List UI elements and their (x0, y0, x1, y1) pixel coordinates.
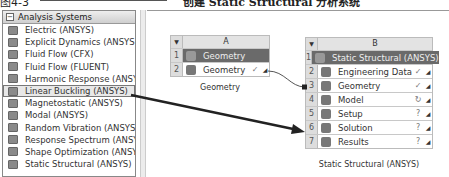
unfulfilled-icon: ? (412, 135, 424, 149)
static-structural-icon (315, 53, 325, 63)
modal-icon (8, 111, 18, 120)
corner-arrow-icon: ◢ (424, 107, 432, 121)
row-number: 7 (306, 135, 318, 148)
results-icon (321, 137, 331, 147)
system-b-row-6[interactable]: 6 Solution?◢ (306, 120, 432, 134)
column-label: B (318, 38, 432, 50)
corner-arrow-icon: ◢ (424, 121, 432, 135)
corner-arrow-icon: ◢ (424, 79, 432, 93)
unfulfilled-icon: ? (412, 121, 424, 135)
caption-box (40, 0, 167, 1)
fluid-flow-cfx-icon (8, 50, 18, 59)
row-number: 2 (171, 63, 183, 76)
unfulfilled-icon: ? (412, 107, 424, 121)
cell-label: Model (338, 93, 412, 107)
geometry-system-icon (186, 51, 196, 61)
refresh-required-icon: ↻ (412, 93, 424, 107)
geometry-icon (186, 65, 196, 75)
toolbox-item-static-structural[interactable]: Static Structural (ANSYS) (3, 158, 135, 170)
column-label: A (183, 36, 269, 48)
system-b-row-1[interactable]: 1 Static Structural (ANSYS) (306, 50, 432, 64)
row-number: 2 (306, 65, 318, 78)
row-number: 1 (171, 49, 183, 62)
panel-splitter[interactable] (140, 10, 146, 177)
corner-arrow-icon: ◢ (424, 65, 432, 79)
row-number: 6 (306, 121, 318, 134)
cell-label: Results (338, 135, 412, 149)
checkmark-icon: ✓ (412, 79, 424, 93)
row-number: 3 (306, 79, 318, 92)
system-b-row-4[interactable]: 4 Model↻◢ (306, 92, 432, 106)
toolbox-item-magnetostatic[interactable]: Magnetostatic (ANSYS) (3, 97, 135, 109)
explicit-dynamics-icon (8, 38, 18, 47)
toolbox-item-label: Explicit Dynamics (ANSYS) (25, 37, 136, 47)
system-b-row-2[interactable]: 2 Engineering Data✓◢ (306, 64, 432, 78)
toolbox-item-electric[interactable]: Electric (ANSYS) (3, 24, 135, 36)
toolbox-item-linear-buckling[interactable]: Linear Buckling (ANSYS) (3, 85, 135, 97)
row-number: 4 (306, 93, 318, 106)
shape-optimization-icon (8, 147, 18, 156)
random-vibration-icon (8, 123, 18, 132)
toolbox-item-modal[interactable]: Modal (ANSYS) (3, 109, 135, 121)
cell-label: Setup (338, 107, 412, 121)
geometry-icon (321, 81, 331, 91)
system-a-caption[interactable]: Geometry (170, 83, 270, 92)
checkmark-icon: ✓ (412, 65, 424, 79)
toolbox-item-label: Response Spectrum (ANSYS) (25, 135, 136, 145)
toolbox-item-random-vibration[interactable]: Random Vibration (ANSYS) (3, 122, 135, 134)
toolbox-item-label: Fluid Flow (FLUENT) (25, 62, 109, 72)
cell-label: Geometry (338, 79, 412, 93)
analysis-systems-header[interactable]: − Analysis Systems (3, 11, 135, 24)
toolbox-item-fluid-flow-fluent[interactable]: Fluid Flow (FLUENT) (3, 61, 135, 73)
toolbox-item-label: Harmonic Response (ANSYS) (25, 74, 136, 84)
checkmark-icon: ✓ (249, 63, 261, 77)
toolbox-item-label: Linear Buckling (ANSYS) (25, 86, 128, 96)
toolbox-item-response-spectrum[interactable]: Response Spectrum (ANSYS) (3, 134, 135, 146)
setup-icon (321, 109, 331, 119)
linear-buckling-icon (8, 87, 18, 96)
system-b-row-3[interactable]: 3 Geometry✓◢ (306, 78, 432, 92)
engineering-data-icon (321, 67, 331, 77)
toolbox-item-fluid-flow-cfx[interactable]: Fluid Flow (CFX) (3, 48, 135, 60)
electric-icon (8, 26, 18, 35)
cell-label: Engineering Data (338, 65, 412, 79)
toolbox-item-label: Static Structural (ANSYS) (25, 159, 132, 169)
system-menu-icon[interactable]: ▼ (306, 38, 318, 50)
toolbox-item-label: Magnetostatic (ANSYS) (25, 98, 123, 108)
harmonic-response-icon (8, 74, 18, 83)
system-a-geometry[interactable]: ▼ A 1 Geometry 2 Geometry✓◢ (170, 35, 270, 77)
toolbox-item-label: Shape Optimization (ANSYS) (25, 147, 136, 157)
system-menu-icon[interactable]: ▼ (171, 36, 183, 48)
response-spectrum-icon (8, 135, 18, 144)
cell-label: Solution (338, 121, 412, 135)
static-structural-icon (8, 160, 18, 169)
system-b-row-5[interactable]: 5 Setup?◢ (306, 106, 432, 120)
system-a-row-1[interactable]: 1 Geometry (171, 48, 269, 62)
corner-arrow-icon: ◢ (424, 93, 432, 107)
model-icon (321, 95, 331, 105)
corner-arrow-icon: ◢ (261, 63, 269, 77)
fluid-flow-fluent-icon (8, 62, 18, 71)
magnetostatic-icon (8, 99, 18, 108)
system-b-caption[interactable]: Static Structural (ANSYS) (305, 160, 433, 169)
corner-arrow-icon: ◢ (424, 135, 432, 149)
toolbox-item-label: Modal (ANSYS) (25, 110, 88, 120)
row-number: 5 (306, 107, 318, 120)
toolbox-item-harmonic-response[interactable]: Harmonic Response (ANSYS) (3, 73, 135, 85)
top-caption: 图4-3 创建 Static Structural 分析系统 (0, 0, 449, 5)
collapse-icon[interactable]: − (6, 13, 14, 21)
cell-label: Static Structural (ANSYS) (332, 51, 439, 65)
toolbox-item-label: Electric (ANSYS) (25, 25, 94, 35)
cell-label: Geometry (203, 49, 269, 63)
cell-label: Geometry (203, 63, 249, 77)
system-b-static-structural[interactable]: ▼ B 1 Static Structural (ANSYS) 2 Engine… (305, 37, 433, 149)
system-a-row-2[interactable]: 2 Geometry✓◢ (171, 62, 269, 76)
analysis-systems-label: Analysis Systems (18, 11, 92, 24)
system-b-row-7[interactable]: 7 Results?◢ (306, 134, 432, 148)
solution-icon (321, 123, 331, 133)
toolbox-item-explicit-dynamics[interactable]: Explicit Dynamics (ANSYS) (3, 36, 135, 48)
toolbox-item-shape-optimization[interactable]: Shape Optimization (ANSYS) (3, 146, 135, 158)
toolbox-item-label: Random Vibration (ANSYS) (25, 123, 136, 133)
toolbox: − Analysis Systems Electric (ANSYS) Expl… (2, 10, 136, 177)
caption-prefix: 图4-3 (0, 0, 29, 9)
